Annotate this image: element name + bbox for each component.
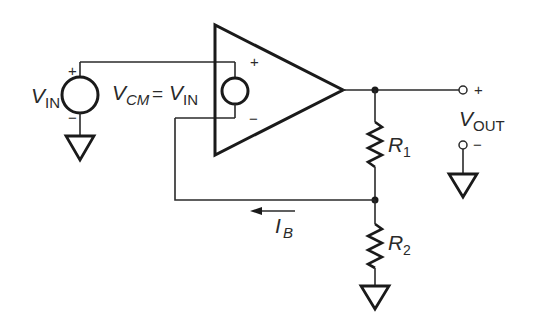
r1-label: R (388, 133, 403, 156)
vcm-source (175, 62, 248, 118)
vin-minus-sign: − (68, 109, 77, 126)
wire-feedback (175, 118, 375, 200)
r2-label-subscript: 2 (403, 242, 411, 258)
ib-arrow-icon (250, 207, 295, 215)
vcm-label-subscript: CM (126, 91, 150, 108)
vout-plus-sign: + (474, 81, 483, 98)
vout-label-subscript: OUT (473, 117, 505, 134)
resistor-r2 (368, 224, 382, 268)
op-amp-inverting-sign: − (249, 110, 258, 127)
vout-minus-terminal (459, 141, 467, 149)
vin-plus-sign: + (68, 62, 77, 79)
ib-label-subscript: B (283, 224, 293, 241)
vcm-rhs-subscript: IN (183, 91, 198, 108)
vcm-equals: = (152, 83, 163, 104)
vout-plus-terminal (459, 86, 467, 94)
vin-label-subscript: IN (45, 94, 60, 111)
resistor-r1 (368, 122, 382, 167)
r1-label-subscript: 1 (403, 144, 411, 160)
ground-icon-vin (66, 136, 94, 160)
op-amp-circuit-diagram: + − V IN V CM = V IN + − + V OUT − R 1 (0, 0, 535, 324)
ib-label: I (275, 214, 281, 237)
vout-minus-sign: − (473, 136, 482, 153)
r2-label: R (388, 231, 403, 254)
ground-icon-vout (449, 174, 477, 197)
op-amp-triangle (215, 25, 343, 155)
ground-icon-r2 (361, 286, 389, 309)
op-amp-noninverting-sign: + (250, 53, 259, 70)
